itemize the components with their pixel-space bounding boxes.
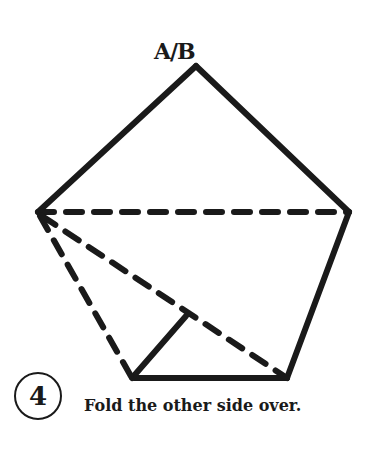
step-number: 4 <box>16 374 60 418</box>
step-number-badge: 4 <box>14 372 62 420</box>
edge-apex-left <box>38 66 196 212</box>
edge-inner-fold <box>132 316 186 378</box>
edge-apex-right <box>196 66 349 212</box>
apex-label: A/B <box>154 38 195 64</box>
edge-right-bottom <box>287 212 349 378</box>
dashed-fold-left-bottom <box>40 216 132 378</box>
instruction-text: Fold the other side over. <box>84 396 301 415</box>
dashed-fold-diagonal <box>42 216 287 378</box>
